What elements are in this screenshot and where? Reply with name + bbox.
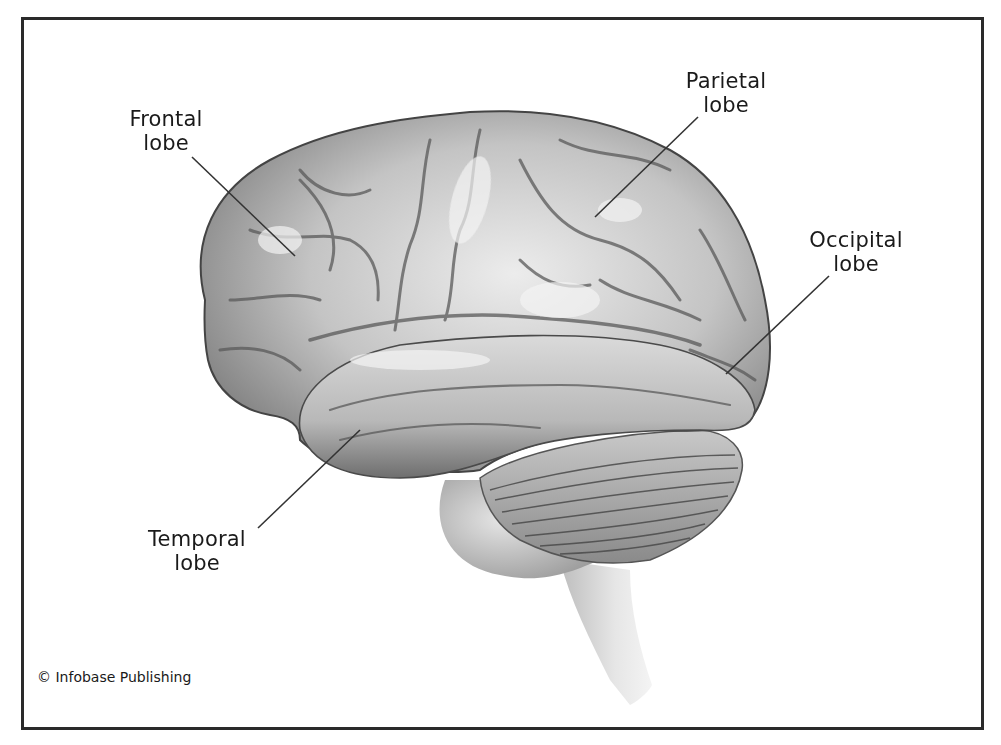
label-frontal-line2: lobe <box>118 131 214 155</box>
label-frontal-lobe: Frontal lobe <box>118 107 214 155</box>
label-occipital-line2: lobe <box>800 252 912 276</box>
label-occipital-line1: Occipital <box>800 228 912 252</box>
label-parietal-line2: lobe <box>676 93 776 117</box>
label-temporal-line1: Temporal <box>140 527 254 551</box>
label-frontal-line1: Frontal <box>118 107 214 131</box>
brainstem <box>560 560 652 705</box>
copyright-credit: © Infobase Publishing <box>37 669 191 685</box>
label-temporal-lobe: Temporal lobe <box>140 527 254 575</box>
label-occipital-lobe: Occipital lobe <box>800 228 912 276</box>
label-parietal-line1: Parietal <box>676 69 776 93</box>
label-parietal-lobe: Parietal lobe <box>676 69 776 117</box>
label-temporal-line2: lobe <box>140 551 254 575</box>
